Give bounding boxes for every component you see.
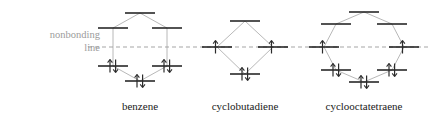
- molecule-label-cyclobutadiene: cyclobutadiene: [190, 99, 300, 113]
- molecule-label-cyclooctatetraene: cyclooctatetraene: [300, 99, 428, 113]
- nonbonding-label-line2: line: [4, 41, 100, 54]
- nonbonding-label-line1: nonbonding: [50, 29, 100, 40]
- nonbonding-line-label: nonbonding line: [4, 28, 100, 54]
- mo-energy-diagram-figure: nonbonding line benzene cyclobutadiene c…: [0, 0, 431, 125]
- molecule-label-benzene: benzene: [92, 99, 188, 113]
